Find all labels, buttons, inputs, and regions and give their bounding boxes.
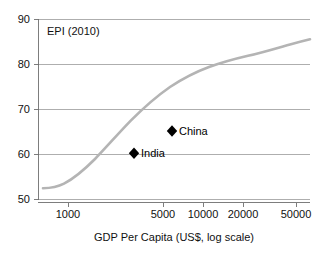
data-point-china[interactable]: China xyxy=(167,125,209,137)
x-tick-label-5000: 5000 xyxy=(151,208,175,220)
y-tick-label-60: 60 xyxy=(18,148,30,160)
x-tick-label-10000: 10000 xyxy=(188,208,219,220)
x-tick-label-20000: 20000 xyxy=(228,208,259,220)
china-point-label: China xyxy=(179,125,209,137)
data-point-india[interactable]: India xyxy=(129,147,166,159)
epi-gdp-scatter-chart: 90 80 70 60 50 1000 5000 10000 20000 500… xyxy=(0,0,329,256)
x-axis-title: GDP Per Capita (US$, log scale) xyxy=(94,231,254,243)
chart-container: 90 80 70 60 50 1000 5000 10000 20000 500… xyxy=(0,0,329,256)
y-tick-label-70: 70 xyxy=(18,103,30,115)
india-point-label: India xyxy=(141,147,166,159)
y-tick-label-50: 50 xyxy=(18,193,30,205)
plot-annotation-epi: EPI (2010) xyxy=(47,25,100,37)
y-tick-label-80: 80 xyxy=(18,58,30,70)
y-tick-label-90: 90 xyxy=(18,13,30,25)
x-tick-label-50000: 50000 xyxy=(281,208,312,220)
x-tick-label-1000: 1000 xyxy=(56,208,80,220)
